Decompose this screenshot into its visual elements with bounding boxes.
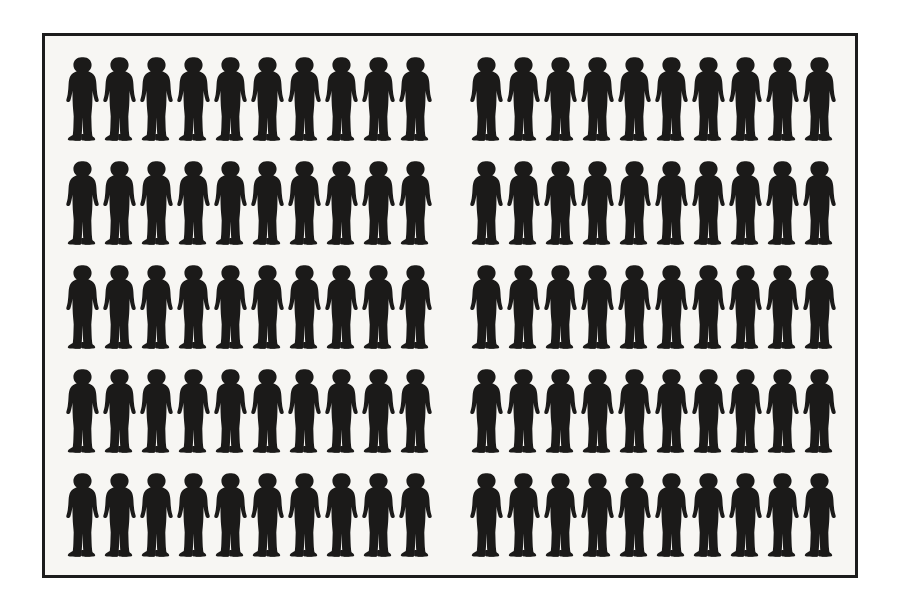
person-icon xyxy=(467,470,504,558)
person-icon xyxy=(396,158,433,246)
person-icon xyxy=(248,366,285,454)
person-icon xyxy=(800,54,837,142)
person-icon xyxy=(396,366,433,454)
person-icon xyxy=(285,158,322,246)
person-icon xyxy=(689,158,726,246)
person-icon xyxy=(359,158,396,246)
person-icon xyxy=(322,54,359,142)
person-icon xyxy=(285,262,322,350)
person-icon xyxy=(137,366,174,454)
figure-group-right xyxy=(467,470,837,558)
person-icon xyxy=(174,470,211,558)
person-icon xyxy=(726,158,763,246)
person-icon xyxy=(248,470,285,558)
person-icon xyxy=(137,54,174,142)
person-icon xyxy=(763,366,800,454)
person-icon xyxy=(63,158,100,246)
person-icon xyxy=(359,470,396,558)
person-icon xyxy=(615,470,652,558)
person-icon xyxy=(137,262,174,350)
person-icon xyxy=(689,366,726,454)
person-icon xyxy=(322,366,359,454)
person-icon xyxy=(541,470,578,558)
person-icon xyxy=(689,54,726,142)
person-icon xyxy=(248,54,285,142)
figure-group-right xyxy=(467,366,837,454)
person-icon xyxy=(541,158,578,246)
person-icon xyxy=(763,262,800,350)
person-icon xyxy=(800,366,837,454)
figure-group-left xyxy=(63,54,433,142)
person-icon xyxy=(578,158,615,246)
person-icon xyxy=(541,54,578,142)
person-icon xyxy=(652,158,689,246)
person-icon xyxy=(800,470,837,558)
person-icon xyxy=(652,262,689,350)
person-icon xyxy=(285,366,322,454)
person-icon xyxy=(615,366,652,454)
person-icon xyxy=(578,470,615,558)
person-icon xyxy=(578,54,615,142)
person-icon xyxy=(504,366,541,454)
person-icon xyxy=(211,54,248,142)
pictogram-canvas xyxy=(0,0,900,606)
person-icon xyxy=(615,262,652,350)
person-icon xyxy=(726,470,763,558)
person-icon xyxy=(763,470,800,558)
person-icon xyxy=(137,470,174,558)
person-icon xyxy=(211,158,248,246)
person-icon xyxy=(174,366,211,454)
figure-group-left xyxy=(63,470,433,558)
person-icon xyxy=(726,366,763,454)
person-icon xyxy=(504,470,541,558)
person-icon xyxy=(100,54,137,142)
person-icon xyxy=(63,262,100,350)
person-icon xyxy=(652,54,689,142)
figure-group-left xyxy=(63,158,433,246)
person-icon xyxy=(359,54,396,142)
person-icon xyxy=(541,366,578,454)
figure-group-left xyxy=(63,366,433,454)
figure-group-left xyxy=(63,262,433,350)
person-icon xyxy=(504,158,541,246)
person-icon xyxy=(322,158,359,246)
figure-group-right xyxy=(467,262,837,350)
person-icon xyxy=(652,366,689,454)
person-icon xyxy=(541,262,578,350)
person-icon xyxy=(248,158,285,246)
person-icon xyxy=(689,470,726,558)
person-icon xyxy=(615,158,652,246)
person-icon xyxy=(396,470,433,558)
figure-group-right xyxy=(467,54,837,142)
person-icon xyxy=(174,262,211,350)
figure-row xyxy=(63,54,837,142)
figure-row xyxy=(63,262,837,350)
person-icon xyxy=(726,54,763,142)
person-icon xyxy=(800,158,837,246)
person-icon xyxy=(652,470,689,558)
person-icon xyxy=(248,262,285,350)
person-icon xyxy=(285,470,322,558)
person-icon xyxy=(578,262,615,350)
person-icon xyxy=(100,366,137,454)
person-icon xyxy=(763,158,800,246)
person-icon xyxy=(322,262,359,350)
person-icon xyxy=(63,366,100,454)
figure-row xyxy=(63,366,837,454)
person-icon xyxy=(174,158,211,246)
chart-frame-border xyxy=(42,33,858,578)
person-icon xyxy=(504,54,541,142)
person-icon xyxy=(504,262,541,350)
person-icon xyxy=(100,262,137,350)
figure-row xyxy=(63,158,837,246)
person-icon xyxy=(174,54,211,142)
person-icon xyxy=(467,54,504,142)
person-icon xyxy=(396,54,433,142)
person-icon xyxy=(100,158,137,246)
figure-group-right xyxy=(467,158,837,246)
figure-field xyxy=(45,36,855,575)
person-icon xyxy=(63,54,100,142)
person-icon xyxy=(211,262,248,350)
person-icon xyxy=(211,366,248,454)
person-icon xyxy=(137,158,174,246)
